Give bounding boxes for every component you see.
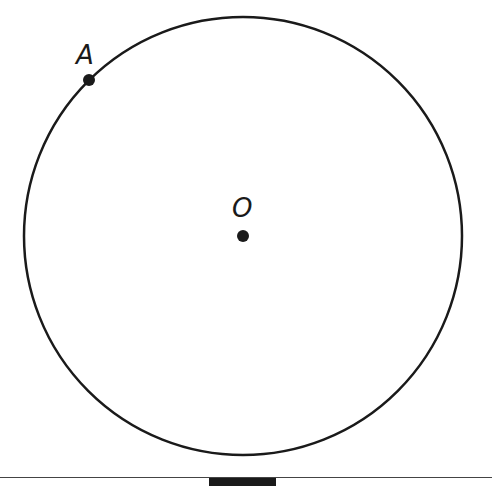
center-o-label: O (232, 195, 252, 221)
circle-diagram (0, 0, 492, 486)
bottom-dark-bar (209, 478, 276, 486)
point-a-label: A (76, 42, 94, 68)
center-point-dot (237, 230, 249, 242)
point-a-dot (83, 74, 95, 86)
